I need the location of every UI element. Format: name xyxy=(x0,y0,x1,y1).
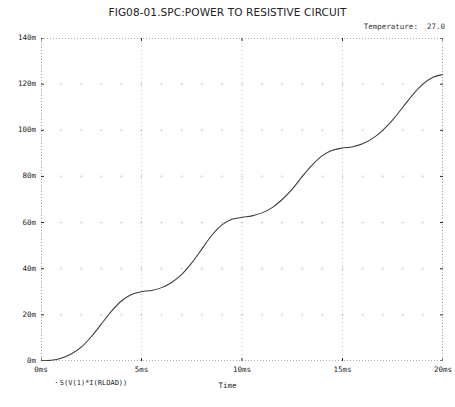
x-tick-label: 10ms xyxy=(220,365,264,374)
y-tick-label: 0m xyxy=(0,356,36,365)
chart-title: FIG08-01.SPC:POWER TO RESISTIVE CIRCUIT xyxy=(0,6,455,18)
temperature-annotation: Temperature: 27.0 xyxy=(364,22,445,31)
y-tick-label: 120m xyxy=(0,79,36,88)
plot-area xyxy=(41,38,443,361)
y-tick-label: 20m xyxy=(0,310,36,319)
footer-strip xyxy=(0,396,455,407)
legend-label: S(V(1)*I(RLOAD)) xyxy=(60,379,127,387)
legend: ·S(V(1)*I(RLOAD)) xyxy=(36,371,127,395)
x-tick-label: 15ms xyxy=(321,365,365,374)
y-tick-label: 80m xyxy=(0,171,36,180)
y-tick-label: 140m xyxy=(0,33,36,42)
plot-svg xyxy=(41,38,443,361)
y-tick-label: 40m xyxy=(0,264,36,273)
legend-marker-icon: · xyxy=(53,379,60,387)
y-tick-label: 100m xyxy=(0,125,36,134)
chart-window: FIG08-01.SPC:POWER TO RESISTIVE CIRCUIT … xyxy=(0,0,455,407)
x-tick-label: 20ms xyxy=(421,365,455,374)
y-tick-label: 60m xyxy=(0,218,36,227)
